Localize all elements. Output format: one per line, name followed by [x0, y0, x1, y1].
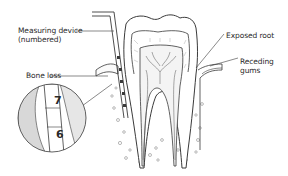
label-receding-gums-sub: gums	[240, 66, 260, 75]
gum-right	[198, 64, 222, 150]
inset-mark-6: 6	[56, 130, 64, 139]
gum-left	[96, 64, 118, 76]
pulp-chamber	[140, 45, 183, 166]
tooth-diagram: 7 6 Measuring device (numbered) Bone los…	[0, 0, 288, 176]
inset-mark-7: 7	[54, 96, 62, 105]
label-measuring-device-sub: (numbered)	[18, 35, 61, 44]
label-bone-loss: Bone loss	[26, 71, 61, 80]
tooth-outline	[124, 15, 198, 168]
label-exposed-root: Exposed root	[226, 31, 274, 40]
label-measuring-device: Measuring device	[18, 26, 82, 35]
inset-magnified	[18, 84, 88, 154]
label-receding-gums: Receding	[240, 57, 274, 66]
